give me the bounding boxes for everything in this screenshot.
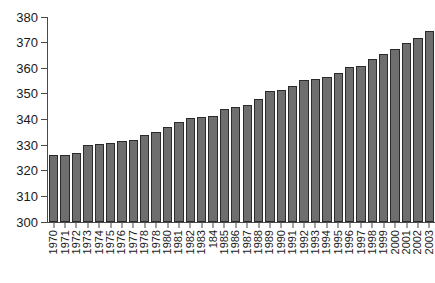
bar-slot bbox=[389, 17, 400, 222]
x-axis-label-wrap: 1970 bbox=[48, 230, 59, 254]
x-axis-tick-mark bbox=[144, 223, 145, 228]
x-axis-tick-mark bbox=[349, 223, 350, 228]
x-axis-tick-label: 1971 bbox=[60, 230, 71, 254]
bar[interactable] bbox=[288, 86, 297, 222]
x-axis-tick: 1973 bbox=[82, 223, 93, 283]
x-axis-tick-label: 1986 bbox=[230, 230, 241, 254]
bar[interactable] bbox=[174, 122, 183, 222]
x-axis-tick-mark bbox=[178, 223, 179, 228]
bar[interactable] bbox=[72, 153, 81, 222]
bar-slot bbox=[367, 17, 378, 222]
x-axis-label-wrap: 1994 bbox=[321, 230, 332, 254]
plot-area bbox=[48, 17, 435, 222]
x-axis-tick-label: 1981 bbox=[173, 230, 184, 254]
bar-slot bbox=[139, 17, 150, 222]
bar[interactable] bbox=[186, 118, 195, 222]
bar-slot bbox=[276, 17, 287, 222]
bar-slot bbox=[242, 17, 253, 222]
bar[interactable] bbox=[345, 67, 354, 222]
x-axis-tick-mark bbox=[190, 223, 191, 228]
bar[interactable] bbox=[243, 105, 252, 222]
x-axis-tick-mark bbox=[395, 223, 396, 228]
bar[interactable] bbox=[208, 116, 217, 222]
bar[interactable] bbox=[83, 145, 92, 222]
bar-slot bbox=[94, 17, 105, 222]
x-axis-tick: 1986 bbox=[230, 223, 241, 283]
bar[interactable] bbox=[356, 66, 365, 222]
x-axis-tick-mark bbox=[247, 223, 248, 228]
bar-slot bbox=[128, 17, 139, 222]
x-axis-tick-mark bbox=[213, 223, 214, 228]
bar-slot bbox=[196, 17, 207, 222]
bar[interactable] bbox=[413, 38, 422, 223]
bar[interactable] bbox=[311, 79, 320, 223]
bar-slot bbox=[230, 17, 241, 222]
bar-slot bbox=[298, 17, 309, 222]
bar-slot bbox=[185, 17, 196, 222]
bar[interactable] bbox=[197, 117, 206, 222]
bar[interactable] bbox=[106, 143, 115, 222]
x-axis-tick-mark bbox=[417, 223, 418, 228]
bar[interactable] bbox=[163, 127, 172, 222]
bar[interactable] bbox=[277, 90, 286, 222]
x-axis-tick: 1996 bbox=[344, 223, 355, 283]
bar[interactable] bbox=[95, 144, 104, 222]
x-axis-label-wrap: 1999 bbox=[378, 230, 389, 254]
bar-slot bbox=[173, 17, 184, 222]
x-axis-tick-mark bbox=[201, 223, 202, 228]
x-axis-tick-label: 184 bbox=[208, 230, 219, 248]
x-axis-tick-label: 1997 bbox=[356, 230, 367, 254]
x-axis-tick-label: 1989 bbox=[264, 230, 275, 254]
bar[interactable] bbox=[402, 43, 411, 222]
bar[interactable] bbox=[322, 77, 331, 222]
x-axis-tick-mark bbox=[281, 223, 282, 228]
bar[interactable] bbox=[140, 135, 149, 222]
x-axis-tick-mark bbox=[235, 223, 236, 228]
x-axis-label-wrap: 1983 bbox=[196, 230, 207, 254]
bar[interactable] bbox=[379, 54, 388, 222]
bar-slot bbox=[207, 17, 218, 222]
x-axis-tick-label: 2003 bbox=[424, 230, 435, 254]
x-axis-tick-label: 1991 bbox=[287, 230, 298, 254]
bar-slot bbox=[71, 17, 82, 222]
bar[interactable] bbox=[425, 31, 434, 222]
y-axis-tick-label: 330 bbox=[16, 139, 41, 152]
bar[interactable] bbox=[231, 107, 240, 222]
y-axis-tick-label: 300 bbox=[16, 216, 41, 229]
bar[interactable] bbox=[60, 155, 69, 222]
bar[interactable] bbox=[220, 109, 229, 222]
x-axis-tick: 1994 bbox=[321, 223, 332, 283]
bar[interactable] bbox=[254, 99, 263, 222]
bar[interactable] bbox=[129, 140, 138, 222]
x-axis-label-wrap: 1989 bbox=[264, 230, 275, 254]
y-axis: 380370360350340330320310300 bbox=[0, 0, 47, 283]
bar-slot bbox=[82, 17, 93, 222]
x-axis-tick-mark bbox=[87, 223, 88, 228]
bar[interactable] bbox=[299, 80, 308, 222]
bar-chart: 380370360350340330320310300 197019711972… bbox=[0, 0, 435, 283]
bar[interactable] bbox=[265, 91, 274, 222]
x-axis-tick-mark bbox=[429, 223, 430, 228]
x-axis-label-wrap: 1997 bbox=[355, 230, 366, 254]
bar-slot bbox=[310, 17, 321, 222]
x-axis-tick-mark bbox=[326, 223, 327, 228]
x-axis-tick-mark bbox=[76, 223, 77, 228]
x-axis-tick: 1997 bbox=[355, 223, 366, 283]
bar-slot bbox=[48, 17, 59, 222]
x-axis-tick: 1976 bbox=[116, 223, 127, 283]
bar[interactable] bbox=[390, 49, 399, 222]
bar[interactable] bbox=[334, 73, 343, 222]
y-axis-tick-label: 310 bbox=[16, 190, 41, 203]
x-axis-tick: 1983 bbox=[196, 223, 207, 283]
bar[interactable] bbox=[49, 155, 58, 222]
x-axis-tick-mark bbox=[269, 223, 270, 228]
x-axis-label-wrap: 1996 bbox=[344, 230, 355, 254]
x-axis-tick-mark bbox=[110, 223, 111, 228]
x-axis-tick-label: 1978 bbox=[151, 230, 162, 254]
x-axis-tick-mark bbox=[292, 223, 293, 228]
x-axis-label-wrap: 1978 bbox=[139, 230, 150, 254]
x-axis-tick-label: 1976 bbox=[116, 230, 127, 254]
bar[interactable] bbox=[151, 132, 160, 222]
bar[interactable] bbox=[368, 59, 377, 222]
bar[interactable] bbox=[117, 141, 126, 222]
